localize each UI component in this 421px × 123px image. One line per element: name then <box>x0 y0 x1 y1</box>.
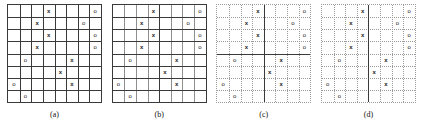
cell-r1-c4[interactable]: x <box>43 5 55 17</box>
cell-r3-c5[interactable] <box>159 29 171 41</box>
cell-r3-c6[interactable] <box>171 29 183 41</box>
cell-r2-c6[interactable] <box>275 17 287 29</box>
cell-r1-c7[interactable] <box>78 5 90 17</box>
cell-r3-c1[interactable] <box>8 29 20 41</box>
cell-r5-c6[interactable]: x <box>66 54 78 66</box>
cell-r8-c2[interactable]: o <box>334 90 346 102</box>
cell-r2-c2[interactable] <box>20 17 32 29</box>
cell-r2-c6[interactable] <box>171 17 183 29</box>
cell-r1-c5[interactable] <box>264 5 276 17</box>
cell-r2-c3[interactable]: x <box>241 17 253 29</box>
cell-r7-c7[interactable] <box>392 78 404 90</box>
cell-r1-c8[interactable]: o <box>194 5 206 17</box>
cell-r4-c6[interactable] <box>66 41 78 53</box>
cell-r4-c7[interactable] <box>182 41 194 53</box>
cell-r7-c6[interactable]: x <box>66 78 78 90</box>
cell-r7-c7[interactable] <box>78 78 90 90</box>
cell-r1-c4[interactable]: x <box>357 5 369 17</box>
cell-r7-c8[interactable] <box>403 78 415 90</box>
cell-r6-c8[interactable] <box>194 66 206 78</box>
cell-r6-c5[interactable]: x <box>264 66 276 78</box>
cell-r6-c8[interactable] <box>403 66 415 78</box>
cell-r4-c5[interactable] <box>159 41 171 53</box>
cell-r6-c4[interactable] <box>357 66 369 78</box>
cell-r2-c5[interactable] <box>55 17 67 29</box>
cell-r3-c6[interactable] <box>380 29 392 41</box>
cell-r5-c8[interactable] <box>299 54 311 66</box>
cell-r2-c8[interactable] <box>403 17 415 29</box>
cell-r5-c3[interactable] <box>241 54 253 66</box>
cell-r1-c2[interactable] <box>334 5 346 17</box>
cell-r2-c8[interactable] <box>89 17 101 29</box>
cell-r5-c7[interactable] <box>78 54 90 66</box>
cell-r1-c5[interactable] <box>368 5 380 17</box>
cell-r4-c2[interactable] <box>124 41 136 53</box>
cell-r4-c4[interactable] <box>43 41 55 53</box>
cell-r1-c8[interactable]: o <box>403 5 415 17</box>
cell-r4-c8[interactable]: o <box>194 41 206 53</box>
cell-r1-c5[interactable] <box>159 5 171 17</box>
cell-r7-c2[interactable] <box>229 78 241 90</box>
cell-r8-c1[interactable] <box>8 90 20 102</box>
cell-r6-c1[interactable] <box>113 66 125 78</box>
cell-r6-c6[interactable] <box>66 66 78 78</box>
cell-r4-c4[interactable] <box>148 41 160 53</box>
cell-r8-c1[interactable] <box>217 90 229 102</box>
cell-r5-c5[interactable] <box>55 54 67 66</box>
cell-r4-c7[interactable] <box>78 41 90 53</box>
cell-r4-c7[interactable] <box>287 41 299 53</box>
cell-r4-c1[interactable] <box>322 41 334 53</box>
cell-r2-c7[interactable]: o <box>182 17 194 29</box>
cell-r7-c1[interactable]: o <box>8 78 20 90</box>
cell-r7-c1[interactable]: o <box>217 78 229 90</box>
cell-r7-c4[interactable] <box>148 78 160 90</box>
cell-r7-c8[interactable] <box>299 78 311 90</box>
cell-r8-c5[interactable] <box>159 90 171 102</box>
cell-r3-c3[interactable] <box>31 29 43 41</box>
cell-r6-c2[interactable] <box>334 66 346 78</box>
cell-r1-c5[interactable] <box>55 5 67 17</box>
cell-r8-c2[interactable]: o <box>20 90 32 102</box>
cell-r4-c3[interactable]: x <box>31 41 43 53</box>
cell-r8-c3[interactable] <box>136 90 148 102</box>
cell-r7-c5[interactable] <box>55 78 67 90</box>
cell-r5-c7[interactable] <box>182 54 194 66</box>
cell-r3-c3[interactable] <box>136 29 148 41</box>
cell-r2-c1[interactable] <box>217 17 229 29</box>
cell-r1-c6[interactable] <box>171 5 183 17</box>
cell-r6-c1[interactable] <box>8 66 20 78</box>
cell-r2-c5[interactable] <box>368 17 380 29</box>
cell-r8-c7[interactable] <box>392 90 404 102</box>
cell-r6-c7[interactable] <box>182 66 194 78</box>
cell-r7-c6[interactable]: x <box>171 78 183 90</box>
cell-r2-c3[interactable]: x <box>31 17 43 29</box>
cell-r4-c8[interactable]: o <box>89 41 101 53</box>
cell-r7-c7[interactable] <box>182 78 194 90</box>
cell-r2-c4[interactable] <box>357 17 369 29</box>
cell-r6-c3[interactable] <box>241 66 253 78</box>
cell-r8-c2[interactable]: o <box>124 90 136 102</box>
cell-r7-c4[interactable] <box>43 78 55 90</box>
cell-r8-c6[interactable] <box>66 90 78 102</box>
cell-r3-c4[interactable]: x <box>357 29 369 41</box>
cell-r1-c3[interactable] <box>136 5 148 17</box>
cell-r5-c6[interactable]: x <box>275 54 287 66</box>
cell-r2-c7[interactable]: o <box>287 17 299 29</box>
cell-r2-c2[interactable] <box>229 17 241 29</box>
cell-r1-c6[interactable] <box>275 5 287 17</box>
cell-r4-c5[interactable] <box>55 41 67 53</box>
cell-r2-c5[interactable] <box>159 17 171 29</box>
cell-r5-c8[interactable] <box>194 54 206 66</box>
cell-r7-c2[interactable] <box>20 78 32 90</box>
cell-r7-c3[interactable] <box>241 78 253 90</box>
cell-r5-c1[interactable] <box>8 54 20 66</box>
cell-r4-c2[interactable] <box>334 41 346 53</box>
cell-r5-c8[interactable] <box>403 54 415 66</box>
cell-r1-c3[interactable] <box>241 5 253 17</box>
cell-r7-c8[interactable] <box>89 78 101 90</box>
cell-r5-c3[interactable] <box>136 54 148 66</box>
cell-r4-c1[interactable] <box>8 41 20 53</box>
cell-r6-c4[interactable] <box>148 66 160 78</box>
cell-r3-c6[interactable] <box>275 29 287 41</box>
cell-r6-c6[interactable] <box>171 66 183 78</box>
